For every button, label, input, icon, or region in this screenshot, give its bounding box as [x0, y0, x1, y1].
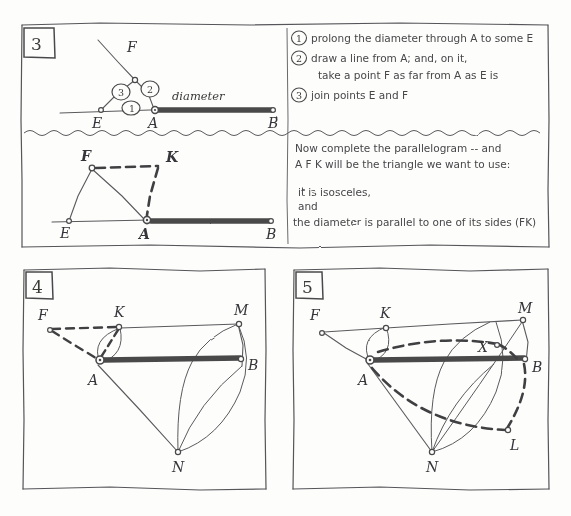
note-line-4: and — [298, 200, 318, 212]
panel-4-number: 4 — [32, 277, 43, 297]
point-label-B-step4: B — [247, 357, 258, 373]
step-marker-2-circle: 2 — [147, 84, 153, 95]
point-label-F-step3: F — [126, 39, 138, 55]
panel-5-number: 5 — [302, 277, 313, 297]
instruction-3-line-1: join points E and F — [310, 89, 408, 101]
point-label-M-step4: M — [233, 302, 249, 318]
diagram-canvas: 3 3 2 1 F E A B diameter — [0, 0, 571, 516]
point-label-B-step5: B — [531, 359, 542, 375]
construction-step3-top — [60, 40, 275, 115]
wavy-separator-right — [288, 131, 540, 136]
instruction-marker-2: 2 — [296, 53, 302, 64]
point-label-K-step3b: K — [165, 149, 179, 165]
point-label-A-step4: A — [86, 372, 98, 388]
instruction-1-line-1: prolong the diameter through A to some E — [311, 32, 533, 44]
point-label-E-step3: E — [91, 115, 102, 131]
panel-4-frame — [23, 268, 266, 490]
diameter-label: diameter — [172, 89, 226, 103]
point-label-F-step4: F — [37, 307, 49, 323]
point-label-A-step5: A — [356, 372, 368, 388]
instruction-2-line-2: take a point F as far from A as E is — [318, 69, 498, 81]
point-label-N-step5: N — [425, 459, 439, 475]
panel-5-frame — [293, 268, 549, 490]
notebook-page: 3 3 2 1 F E A B diameter — [0, 0, 571, 516]
point-label-F-step3b: F — [80, 148, 92, 164]
panel-3-number: 3 — [31, 34, 42, 54]
point-label-M-step5: M — [517, 300, 533, 316]
point-label-E-step3b: E — [59, 225, 70, 241]
point-label-B-step3b: B — [265, 226, 276, 242]
point-label-A-step3: A — [146, 115, 158, 131]
construction-step5 — [320, 317, 528, 454]
note-line-5: the diameter is parallel to one of its s… — [293, 216, 536, 228]
instruction-2-line-1: draw a line from A; and, on it, — [311, 52, 467, 64]
instruction-marker-3: 3 — [296, 90, 302, 101]
note-line-1: Now complete the parallelogram -- and — [295, 142, 501, 154]
point-label-L-step5: L — [509, 437, 519, 453]
panel-3-frame — [21, 23, 549, 248]
point-label-K-step5: K — [379, 305, 392, 321]
construction-step4 — [48, 321, 247, 454]
diameter-bar-step5 — [373, 358, 524, 360]
construction-step3-bottom — [52, 165, 273, 223]
panel-3-divider — [287, 28, 288, 244]
note-line-3: it is isosceles, — [298, 186, 371, 198]
instruction-marker-1: 1 — [296, 33, 302, 44]
step-marker-3-circle: 3 — [118, 87, 124, 98]
diameter-bar-step4 — [103, 358, 240, 360]
point-label-K-step4: K — [113, 304, 126, 320]
step-marker-1-circle: 1 — [129, 103, 135, 114]
point-label-X-step5: X — [477, 339, 489, 355]
point-label-F-step5: F — [309, 307, 321, 323]
point-label-A-step3b: A — [137, 226, 150, 242]
point-label-B-step3: B — [267, 115, 278, 131]
point-label-N-step4: N — [171, 459, 185, 475]
note-line-2: A F K will be the triangle we want to us… — [295, 158, 510, 170]
wavy-separator — [24, 131, 288, 136]
